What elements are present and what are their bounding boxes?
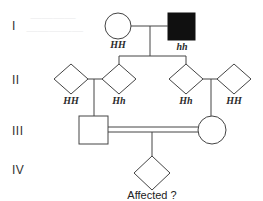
individual-i-1-circle[interactable]: [105, 13, 131, 39]
individual-iii-2-circle[interactable]: [198, 116, 226, 144]
genotype-ii-2: Hh: [99, 95, 139, 106]
individual-ii-2-diamond[interactable]: [102, 64, 136, 94]
affected-question-caption: Affected ?: [112, 189, 192, 201]
individual-iv-1-diamond[interactable]: [134, 156, 170, 190]
genotype-ii-4: HH: [214, 95, 254, 106]
individual-ii-4-diamond[interactable]: [217, 64, 251, 94]
genotype-i-2: hh: [162, 41, 202, 52]
individual-iii-1-square[interactable]: [79, 116, 108, 144]
genotype-i-1: HH: [98, 39, 138, 50]
individual-i-2-square-affected[interactable]: [168, 13, 195, 40]
genotype-ii-1: HH: [51, 95, 91, 106]
individual-ii-3-diamond[interactable]: [169, 64, 203, 94]
genotype-ii-3: Hh: [166, 95, 206, 106]
individual-ii-1-diamond[interactable]: [54, 64, 88, 94]
pedigree-chart: ———— ————— I II III IV: [0, 0, 263, 201]
